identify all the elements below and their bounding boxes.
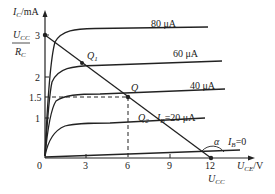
curve-label-80: 80 μA (151, 18, 177, 29)
point-ucc-rc (43, 33, 47, 37)
alpha-label: α (214, 136, 220, 147)
y-tick-3: 3 (35, 30, 40, 41)
x-tick-3: 3 (83, 160, 88, 171)
q-projection-lines (45, 97, 128, 158)
point-q (126, 95, 130, 99)
output-characteristics-chart: IC/mA UCC RC 3 2 1.5 1 0 3 6 9 12 UCC UC… (0, 0, 275, 194)
y-axis-arrow-icon (43, 10, 48, 17)
curve-label-0: IB=0 (227, 136, 246, 149)
curve-label-20: IB=20 μA (156, 112, 196, 125)
ticks (45, 35, 170, 158)
ucc-x-label: UCC (208, 173, 225, 186)
y-tick-2: 2 (35, 72, 40, 83)
curve-ib-40 (45, 89, 225, 156)
q1-label: Q1 (87, 50, 98, 63)
q2-label: Q2 (138, 112, 149, 125)
y-axis-title: IC/mA (12, 6, 40, 19)
y-tick-1-5: 1.5 (29, 92, 42, 103)
q-label: Q (131, 82, 139, 93)
x-tick-6: 6 (125, 160, 130, 171)
curve-ib-60 (45, 61, 222, 156)
point-q1 (80, 61, 84, 65)
curve-ib-20 (45, 118, 205, 156)
curve-label-40: 40 μA (190, 80, 216, 91)
x-axis-title: UCE/V (237, 160, 264, 173)
x-tick-0: 0 (37, 160, 42, 171)
x-tick-9: 9 (167, 160, 172, 171)
rc-denominator: RC (14, 46, 26, 59)
characteristic-curves (45, 27, 240, 157)
x-tick-12: 12 (205, 160, 215, 171)
curve-label-60: 60 μA (173, 48, 199, 59)
y-tick-1: 1 (35, 113, 40, 124)
curve-ib-80 (45, 27, 208, 156)
ucc-numerator: UCC (13, 29, 30, 42)
